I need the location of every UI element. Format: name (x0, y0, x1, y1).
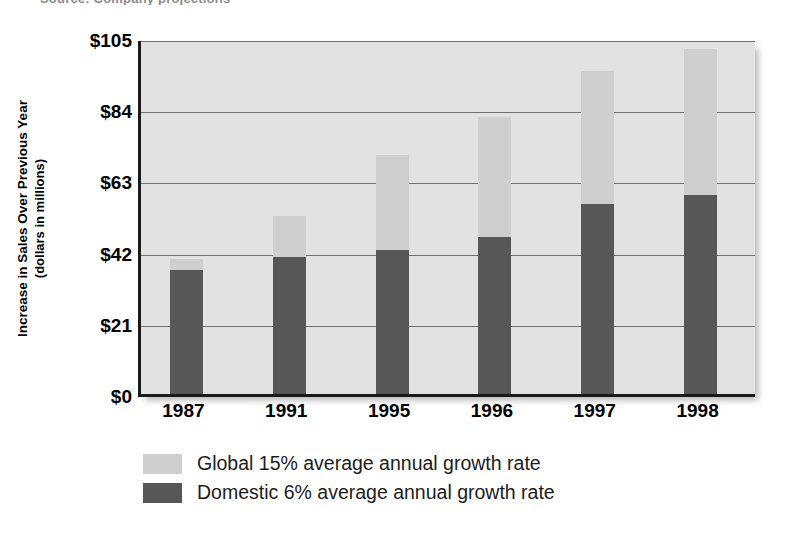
bar-1991 (273, 38, 306, 394)
bar-segment-global (170, 259, 203, 269)
legend-item: Global 15% average annual growth rate (143, 449, 703, 478)
chart-figure: Source: Company projections Increase in … (0, 0, 785, 547)
y-axis-title-line2: (dollars in millions) (31, 101, 47, 338)
bar-1996 (478, 38, 511, 394)
bar-1995 (376, 38, 409, 394)
x-axis-tick-label-1997: 1997 (550, 400, 640, 422)
bar-segment-domestic (684, 195, 717, 394)
bar-segment-domestic (478, 237, 511, 394)
gridline (141, 326, 755, 327)
bar-segment-domestic (376, 250, 409, 394)
bar-1997 (581, 38, 614, 394)
y-axis-title-line1: Increase in Sales Over Previous Year (14, 101, 31, 338)
gridline (141, 112, 755, 113)
y-axis-tick-label: $0 (60, 386, 138, 408)
bar-segment-global (376, 155, 409, 250)
bar-segment-domestic (581, 204, 614, 394)
x-axis-tick-labels: 198719911995199619971998 (138, 400, 755, 428)
plot-inner (141, 41, 755, 394)
bar-segment-domestic (273, 257, 306, 394)
gridline (141, 183, 755, 184)
chart-legend: Global 15% average annual growth rateDom… (143, 449, 703, 507)
bar-segment-domestic (170, 270, 203, 394)
y-axis-title: Increase in Sales Over Previous Year (do… (8, 41, 54, 397)
x-axis-tick-label-1987: 1987 (138, 400, 228, 422)
bar-segment-global (478, 117, 511, 238)
y-axis-tick-label: $21 (60, 315, 138, 337)
bar-segment-global (581, 71, 614, 204)
bar-1998 (684, 38, 717, 394)
x-axis-tick-label-1995: 1995 (344, 400, 434, 422)
y-axis-tick-labels: $0$21$42$63$84$105 (52, 41, 138, 397)
legend-label: Domestic 6% average annual growth rate (197, 481, 555, 504)
y-axis-tick-label: $84 (60, 101, 138, 123)
x-axis-tick-label-1996: 1996 (447, 400, 537, 422)
legend-swatch (143, 454, 182, 474)
clipped-header-text: Source: Company projections (40, 0, 470, 5)
legend-item: Domestic 6% average annual growth rate (143, 478, 703, 507)
y-axis-tick-label: $42 (60, 244, 138, 266)
gridline (141, 41, 755, 42)
legend-label: Global 15% average annual growth rate (197, 452, 541, 475)
y-axis-tick-label: $105 (60, 30, 138, 52)
x-axis-tick-label-1991: 1991 (241, 400, 331, 422)
gridline (141, 255, 755, 256)
x-axis-tick-label-1998: 1998 (653, 400, 743, 422)
bar-segment-global (684, 49, 717, 194)
y-axis-tick-label: $63 (60, 172, 138, 194)
legend-swatch (143, 483, 182, 503)
bar-1987 (170, 38, 203, 394)
plot-area (138, 41, 755, 397)
bar-segment-global (273, 216, 306, 257)
